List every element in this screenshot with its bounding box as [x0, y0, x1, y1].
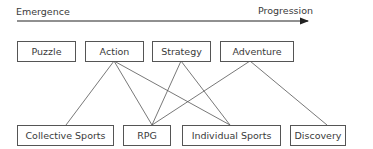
progression-label: Progression	[258, 5, 313, 16]
node-discovery: Discovery	[290, 125, 346, 146]
node-individual-sports: Individual Sports	[182, 125, 281, 146]
node-puzzle: Puzzle	[17, 41, 76, 62]
node-action: Action	[85, 41, 144, 62]
node-rpg: RPG	[123, 125, 171, 146]
edge-action-individual-sports	[114, 61, 230, 125]
edge-strategy-individual-sports	[181, 61, 230, 125]
edge-adventure-discovery	[250, 61, 327, 125]
edge-action-rpg	[114, 61, 152, 125]
node-collective-sports: Collective Sports	[17, 125, 114, 146]
emergence-label: Emergence	[16, 6, 70, 17]
edge-action-collective-sports	[66, 61, 114, 125]
node-adventure: Adventure	[220, 41, 294, 62]
node-strategy: Strategy	[152, 41, 211, 62]
